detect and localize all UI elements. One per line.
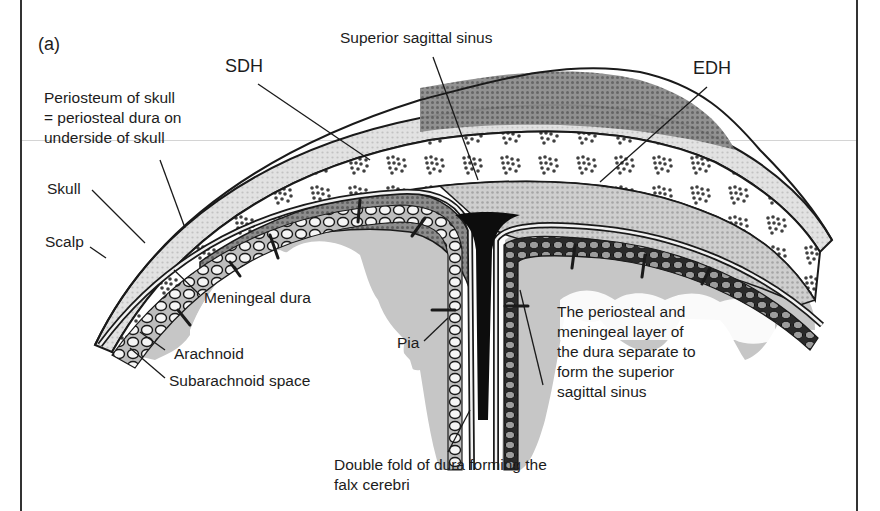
panel-label: (a) (38, 34, 60, 54)
label-dura-separation-line4: form the superior (557, 362, 696, 382)
label-arachnoid: Arachnoid (174, 344, 244, 364)
label-periosteum-line2: = periosteal dura on (44, 108, 181, 128)
label-skull: Skull (47, 179, 81, 199)
label-dura-separation-line5: sagittal sinus (557, 382, 696, 402)
label-sdh: SDH (225, 56, 263, 76)
label-dura-separation-line2: meningeal layer of (557, 322, 696, 342)
label-scalp: Scalp (45, 232, 84, 252)
label-falx-line2: falx cerebri (334, 475, 547, 495)
label-dura-separation-line1: The periosteal and (557, 302, 696, 322)
label-dura-separation: The periosteal and meningeal layer of th… (557, 302, 696, 402)
label-periosteum-line1: Periosteum of skull (44, 88, 181, 108)
label-falx-cerebri: Double fold of dura forming the falx cer… (334, 455, 547, 495)
label-pia: Pia (397, 333, 419, 353)
label-falx-line1: Double fold of dura forming the (334, 455, 547, 475)
label-periosteum: Periosteum of skull = periosteal dura on… (44, 88, 181, 148)
meninges-diagram (0, 0, 880, 511)
label-periosteum-line3: underside of skull (44, 128, 181, 148)
label-edh: EDH (693, 58, 731, 78)
label-meningeal-dura: Meningeal dura (204, 288, 311, 308)
label-subarachnoid-space: Subarachnoid space (169, 371, 310, 391)
label-dura-separation-line3: the dura separate to (557, 342, 696, 362)
label-superior-sagittal-sinus: Superior sagittal sinus (340, 28, 493, 48)
